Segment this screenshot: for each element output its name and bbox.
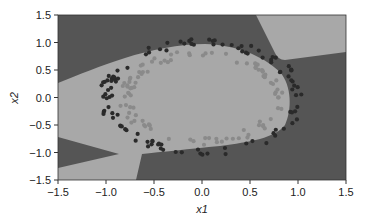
outer-point xyxy=(164,48,168,52)
inner-point xyxy=(231,137,235,141)
inner-point xyxy=(263,75,267,79)
outer-point xyxy=(299,92,303,96)
inner-point xyxy=(118,104,122,108)
inner-point xyxy=(246,133,250,137)
outer-point xyxy=(240,49,244,53)
inner-point xyxy=(235,61,239,65)
inner-point xyxy=(261,124,265,128)
outer-point xyxy=(174,150,178,154)
inner-point xyxy=(276,95,280,99)
outer-point xyxy=(294,93,298,97)
inner-point xyxy=(210,51,214,55)
outer-point xyxy=(223,146,227,150)
inner-point xyxy=(273,92,277,96)
inner-point xyxy=(175,50,179,54)
y-tick-label: −0.5 xyxy=(29,119,51,131)
outer-point xyxy=(278,70,282,74)
outer-point xyxy=(116,76,120,80)
outer-point xyxy=(116,113,120,117)
outer-point xyxy=(290,121,294,125)
outer-point xyxy=(196,148,200,152)
outer-point xyxy=(107,74,111,78)
outer-point xyxy=(257,48,261,52)
outer-point xyxy=(110,93,114,97)
outer-point xyxy=(105,78,109,82)
outer-point xyxy=(118,124,122,128)
inner-point xyxy=(280,91,284,95)
outer-point xyxy=(250,139,254,143)
outer-point xyxy=(150,139,154,143)
outer-point xyxy=(110,111,114,115)
outer-point xyxy=(290,87,294,91)
outer-point xyxy=(274,56,278,60)
inner-point xyxy=(149,127,153,131)
outer-point xyxy=(200,153,204,157)
outer-point xyxy=(182,41,186,45)
outer-point xyxy=(136,132,140,136)
outer-point xyxy=(246,51,250,55)
inner-point xyxy=(150,60,154,64)
inner-point xyxy=(224,136,228,140)
inner-point xyxy=(269,81,273,85)
x-tick-label: 0.5 xyxy=(242,186,257,198)
inner-point xyxy=(169,58,173,62)
inner-point xyxy=(162,58,166,62)
outer-point xyxy=(230,43,234,47)
outer-point xyxy=(282,127,286,131)
outer-point xyxy=(287,64,291,68)
inner-point xyxy=(134,113,138,117)
outer-point xyxy=(123,127,127,131)
outer-point xyxy=(134,139,138,143)
outer-point xyxy=(106,88,110,92)
inner-point xyxy=(224,52,228,56)
inner-point xyxy=(203,51,207,55)
outer-point xyxy=(100,83,104,87)
outer-point xyxy=(223,152,227,156)
inner-point xyxy=(131,106,135,110)
inner-point xyxy=(121,84,125,88)
x-tick-label: −1.5 xyxy=(47,186,69,198)
outer-point xyxy=(147,50,151,54)
outer-point xyxy=(101,112,105,116)
outer-point xyxy=(178,40,182,44)
x-axis-label: x1 xyxy=(195,203,208,215)
outer-point xyxy=(159,142,163,146)
decision-boundary-chart: −1.5−1.0−0.50.00.51.01.5 1.51.00.50.0−0.… xyxy=(0,0,366,224)
inner-point xyxy=(187,51,191,55)
inner-point xyxy=(188,137,192,141)
x-tick-label: 1.0 xyxy=(290,186,305,198)
outer-point xyxy=(292,84,296,88)
y-tick-label: 0.0 xyxy=(36,92,51,104)
outer-point xyxy=(289,78,293,82)
inner-point xyxy=(261,69,265,73)
outer-point xyxy=(295,105,299,109)
inner-point xyxy=(169,52,173,56)
outer-point xyxy=(146,144,150,148)
outer-point xyxy=(211,39,215,43)
inner-point xyxy=(127,80,131,84)
y-tick-label: −1.0 xyxy=(29,147,51,159)
outer-point xyxy=(189,37,193,41)
inner-point xyxy=(202,143,206,147)
outer-point xyxy=(106,105,110,109)
outer-point xyxy=(145,140,149,144)
inner-point xyxy=(141,119,145,123)
inner-point xyxy=(141,63,145,67)
outer-point xyxy=(180,150,184,154)
outer-point xyxy=(260,56,264,60)
outer-point xyxy=(158,47,162,51)
outer-point xyxy=(295,117,299,121)
x-axis: −1.5−1.0−0.50.00.51.01.5 xyxy=(47,180,354,198)
outer-point xyxy=(205,151,209,155)
inner-point xyxy=(141,70,145,74)
outer-point xyxy=(249,44,253,48)
x-tick-label: 0.0 xyxy=(194,186,209,198)
inner-point xyxy=(242,128,246,132)
outer-point xyxy=(273,134,277,138)
outer-point xyxy=(125,66,129,70)
outer-point xyxy=(109,79,113,83)
inner-point xyxy=(269,117,273,121)
outer-point xyxy=(264,141,268,145)
inner-point xyxy=(132,119,136,123)
inner-point xyxy=(132,85,136,89)
